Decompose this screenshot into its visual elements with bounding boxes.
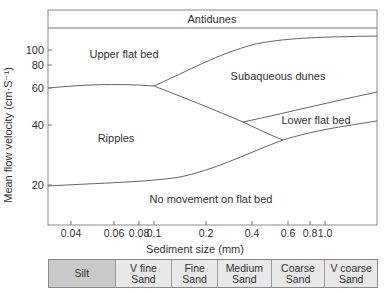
size-class-label: Silt (75, 268, 90, 279)
size-class-label: V coarseSand (330, 263, 371, 285)
region-lower-flat-bed: Lower flat bed (281, 114, 350, 126)
x-axis-ticks: 0.040.060.080.10.20.40.60.81.0 (61, 221, 333, 239)
size-class-cell: Silt (49, 260, 116, 287)
boundary-upper-flat-ripples (48, 85, 154, 88)
size-class-cell: V fineSand (116, 260, 173, 287)
x-tick-label: 0.2 (199, 227, 214, 239)
size-class-cell: MediumSand (218, 260, 272, 287)
size-class-label: CoarseSand (281, 263, 315, 285)
boundary-ripples-dunes (154, 86, 283, 140)
size-class-cell: FineSand (172, 260, 218, 287)
region-ripples: Ripples (98, 132, 135, 144)
x-tick-label: 0.8 (303, 227, 318, 239)
sediment-size-classes: SiltV fineSandFineSandMediumSandCoarseSa… (48, 259, 378, 288)
y-tick-label: 40 (32, 119, 44, 131)
size-class-cell: CoarseSand (272, 260, 326, 287)
x-axis-label: Sediment size (mm) (146, 243, 244, 255)
phase-diagram: Antidunes Upper flat bed Subaqueous dune… (0, 0, 386, 293)
region-subaqueous-dunes: Subaqueous dunes (231, 70, 326, 82)
x-tick-label: 0.06 (104, 227, 125, 239)
size-class-cell: V coarseSand (325, 260, 377, 287)
region-no-movement: No movement on flat bed (150, 193, 273, 205)
x-tick-label: 1.0 (318, 227, 333, 239)
x-tick-label: 0.1 (147, 227, 162, 239)
y-axis-label: Mean flow velocity (cm·S⁻¹) (2, 67, 14, 203)
region-upper-flat-bed: Upper flat bed (89, 48, 158, 60)
region-antidunes: Antidunes (188, 13, 237, 25)
size-class-label: V fineSand (130, 263, 157, 285)
y-tick-label: 20 (32, 179, 44, 191)
size-class-label: FineSand (182, 263, 207, 285)
y-tick-label: 100 (26, 44, 44, 56)
x-tick-label: 0.4 (245, 227, 260, 239)
y-tick-label: 60 (32, 82, 44, 94)
x-tick-label: 0.6 (281, 227, 296, 239)
x-tick-label: 0.04 (61, 227, 82, 239)
boundary-ripples-no-movement (48, 121, 377, 186)
size-class-label: MediumSand (226, 263, 263, 285)
y-tick-label: 80 (32, 59, 44, 71)
